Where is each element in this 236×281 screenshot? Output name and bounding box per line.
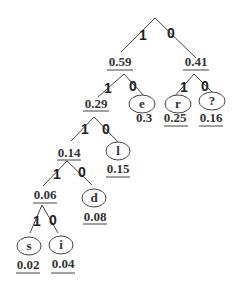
internal-node-0.59: 0.59 1 0 xyxy=(98,54,146,98)
leaf-question: ? 0.16 xyxy=(199,92,225,126)
node-value: 0.29 xyxy=(85,96,108,111)
edge-root-right xyxy=(155,18,196,58)
edge-label-1: 1 xyxy=(33,213,41,229)
leaf-s: s 0.02 xyxy=(16,237,41,273)
leaf-symbol: ? xyxy=(209,93,216,108)
leaf-symbol: s xyxy=(26,238,31,253)
internal-node-0.14: 0.14 1 0 xyxy=(43,145,92,186)
edge-label-1: 1 xyxy=(139,27,147,43)
edge-label-1: 1 xyxy=(53,166,61,182)
edge-label-0: 0 xyxy=(167,25,175,41)
edge-label-0: 0 xyxy=(201,78,209,94)
edge-label-1: 1 xyxy=(104,80,112,96)
leaf-value: 0.15 xyxy=(107,161,130,176)
leaf-value: 0.3 xyxy=(136,110,153,125)
leaf-e: e 0.3 xyxy=(129,95,155,125)
edge-label-0: 0 xyxy=(129,78,137,94)
root-node: 1 0 xyxy=(121,18,196,58)
internal-node-0.29: 0.29 1 0 xyxy=(71,96,119,143)
edge-label-1: 1 xyxy=(180,79,188,95)
leaf-r: r 0.25 xyxy=(164,95,191,126)
leaf-value: 0.25 xyxy=(164,110,187,125)
edge-label-1: 1 xyxy=(81,121,89,137)
leaf-value: 0.02 xyxy=(17,257,40,272)
huffman-tree-diagram: 1 0 0.59 1 0 0.41 1 0 e 0.3 r 0.25 ? 0.1… xyxy=(0,0,236,281)
leaf-i: i 0.04 xyxy=(49,236,75,273)
leaf-value: 0.08 xyxy=(84,209,107,224)
edge-label-0: 0 xyxy=(78,164,86,180)
leaf-d: d 0.08 xyxy=(82,189,107,224)
leaf-symbol: l xyxy=(116,143,120,158)
leaf-symbol: d xyxy=(90,190,98,205)
node-value: 0.41 xyxy=(185,54,208,69)
internal-node-0.41: 0.41 1 0 xyxy=(174,54,214,97)
edge-root-left xyxy=(121,18,155,52)
node-value: 0.06 xyxy=(34,187,57,202)
leaf-value: 0.16 xyxy=(200,110,223,125)
edge-label-0: 0 xyxy=(102,121,110,137)
leaf-symbol: e xyxy=(139,96,145,111)
node-value: 0.14 xyxy=(58,145,81,160)
node-value: 0.59 xyxy=(109,54,132,69)
edge-label-0: 0 xyxy=(49,212,57,228)
leaf-symbol: i xyxy=(59,237,63,252)
leaf-symbol: r xyxy=(175,96,181,111)
leaf-l: l 0.15 xyxy=(106,142,130,177)
leaf-value: 0.04 xyxy=(52,256,75,271)
internal-node-0.06: 0.06 1 0 xyxy=(30,187,58,233)
